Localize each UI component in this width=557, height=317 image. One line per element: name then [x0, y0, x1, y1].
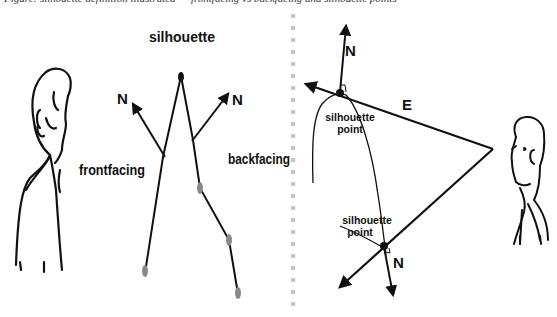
silhouette-point-bottom-label-2: point [347, 226, 373, 238]
viewer-head-left-icon [16, 69, 71, 272]
silhouette-vertex [178, 72, 184, 82]
normal-arrow-frontfacing [133, 104, 165, 157]
backfacing-label: backfacing [228, 151, 290, 167]
normal-label-left: N [117, 90, 128, 107]
silhouette-point-top [336, 89, 344, 97]
normal-label-right: N [232, 91, 243, 108]
left-panel: silhouette N N frontfacing backfacing [16, 29, 290, 299]
silhouette-point-top-label-1: silhouette [325, 111, 375, 123]
silhouette-diagram: silhouette N N frontfacing backfacing [0, 0, 557, 317]
normal-arrow-backfacing [192, 94, 228, 141]
frontfacing-label: frontfacing [79, 162, 145, 178]
silhouette-point-bottom [380, 242, 388, 250]
eye-vector-label: E [402, 96, 412, 113]
silhouette-point-bottom-label-1: silhouette [342, 214, 392, 226]
normal-arrow-top [340, 26, 346, 92]
right-panel: N E silhouette point silhouette point N [306, 26, 548, 295]
surface-edges [145, 76, 238, 294]
normal-label-top: N [345, 42, 356, 59]
viewer-head-right-icon [511, 117, 548, 244]
silhouette-title: silhouette [149, 29, 215, 45]
normal-label-bottom: N [393, 254, 404, 271]
normal-arrow-bottom [384, 247, 393, 295]
silhouette-point-top-label-2: point [337, 123, 363, 135]
